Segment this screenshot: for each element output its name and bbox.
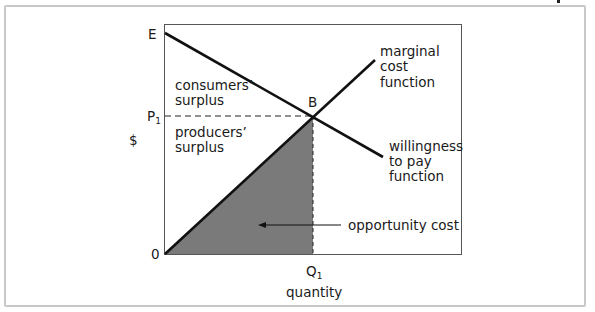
- x-axis-label: quantity: [286, 284, 342, 300]
- consumers-surplus-line2: surplus: [175, 92, 224, 108]
- label-q1: Q1: [306, 263, 322, 281]
- label-p1: P1: [147, 108, 161, 126]
- point-b-label: B: [308, 94, 317, 110]
- origin-label: 0: [151, 246, 160, 262]
- y-axis-label: $: [129, 132, 138, 148]
- producers-surplus-line1: producers’: [175, 124, 247, 140]
- label-e: E: [148, 26, 157, 42]
- consumers-surplus-line1: consumers’: [175, 77, 253, 93]
- producers-surplus-line2: surplus: [175, 139, 224, 155]
- marginal-cost-label-line3: function: [380, 74, 435, 90]
- marginal-cost-label-line1: marginal: [380, 43, 440, 59]
- surplus-diagram: E P1 $ 0 Q1 quantity B consumers’ surplu…: [0, 0, 595, 312]
- wtp-label-line1: willingness: [389, 138, 463, 154]
- wtp-label-line2: to pay: [389, 153, 432, 169]
- opportunity-cost-label: opportunity cost: [348, 217, 459, 233]
- marginal-cost-label-line2: cost: [380, 58, 408, 74]
- wtp-label-line3: function: [389, 168, 444, 184]
